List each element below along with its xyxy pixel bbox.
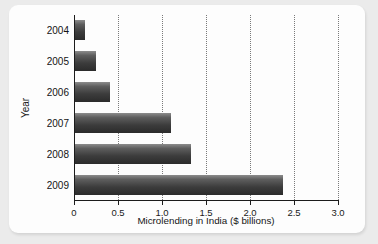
x-axis-tick	[206, 200, 207, 205]
y-axis-title: Year	[20, 98, 31, 118]
y-axis-category-label: 2005	[35, 56, 69, 67]
bar	[75, 51, 96, 71]
y-axis-category-label: 2004	[35, 25, 69, 36]
x-axis-tick	[250, 200, 251, 205]
chart-card: Year 00.51.01.52.02.53.0 Microlending in…	[9, 5, 365, 233]
x-axis-tick	[162, 200, 163, 205]
x-axis-tick	[74, 200, 75, 205]
bar	[75, 113, 171, 133]
gridline	[338, 15, 340, 200]
plot-area: 00.51.01.52.02.53.0	[74, 15, 338, 200]
y-axis-category-label: 2009	[35, 179, 69, 190]
x-axis-tick	[338, 200, 339, 205]
bar	[75, 175, 283, 195]
x-axis-tick	[118, 200, 119, 205]
y-axis-category-label: 2006	[35, 87, 69, 98]
gridline	[206, 15, 208, 200]
bar	[75, 82, 110, 102]
gridline	[162, 15, 164, 200]
y-axis-category-label: 2008	[35, 148, 69, 159]
x-axis-title: Microlending in India ($ billions)	[74, 215, 338, 226]
bar	[75, 144, 191, 164]
bar	[75, 20, 85, 40]
gridline	[294, 15, 296, 200]
y-axis-category-label: 2007	[35, 117, 69, 128]
x-axis-tick	[294, 200, 295, 205]
gridline	[118, 15, 120, 200]
bar-chart: Year 00.51.01.52.02.53.0 Microlending in…	[9, 5, 365, 233]
y-axis-line	[74, 15, 75, 200]
gridline	[250, 15, 252, 200]
